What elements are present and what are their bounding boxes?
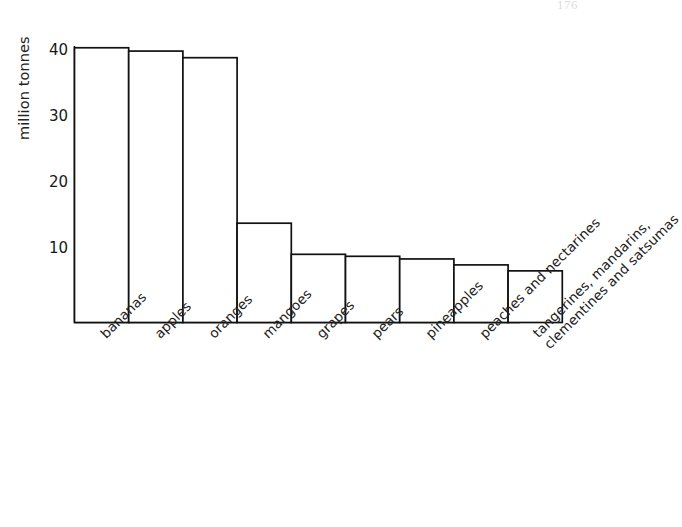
bar-apples	[129, 51, 183, 322]
bars-group	[75, 48, 563, 323]
bar-bananas	[75, 48, 129, 323]
bar-oranges	[183, 58, 237, 323]
